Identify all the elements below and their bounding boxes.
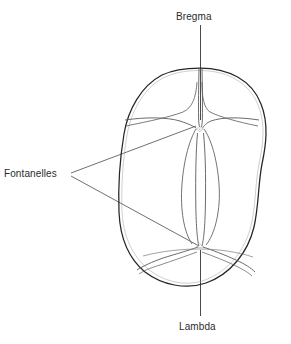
occipital-border-left <box>139 252 197 274</box>
sagittal-suture-upper-b <box>201 69 202 127</box>
occipital-transverse-line <box>143 249 253 257</box>
coronal-suture-left <box>125 118 196 128</box>
sagittal-suture-upper <box>199 69 200 127</box>
leader-lines-group <box>71 25 201 316</box>
parietal-border-left <box>181 129 196 244</box>
sagittal-suture-lower-right <box>202 133 206 246</box>
frontal-bone-border-right <box>202 82 258 126</box>
parietal-border-right <box>204 129 219 245</box>
parietal-borders-group <box>181 129 219 245</box>
fontanelles-upper-leader-line <box>71 126 196 173</box>
label-bregma: Bregma <box>176 11 212 23</box>
anterior-fontanelle-center <box>199 129 200 130</box>
lambdoid-suture-group <box>137 244 255 277</box>
label-fontanelles: Fontanelles <box>4 168 57 180</box>
fontanelles-diagram: Bregma Lambda Fontanelles <box>0 0 291 344</box>
label-lambda: Lambda <box>179 321 216 333</box>
fontanelles-lower-leader-line <box>71 176 199 246</box>
anterior-fontanelle <box>196 127 203 133</box>
lambdoid-suture-right <box>203 247 255 272</box>
frontal-bone-border-left <box>126 82 197 126</box>
lambdoid-suture-left <box>137 247 198 270</box>
sagittal-suture-lower-left <box>196 133 199 246</box>
